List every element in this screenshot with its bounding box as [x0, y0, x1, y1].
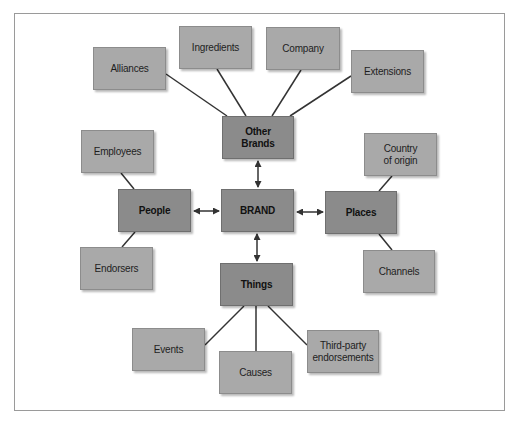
node-country-of-origin: Country of origin	[364, 133, 437, 176]
node-things: Things	[220, 263, 293, 306]
node-other-brands: Other Brands	[222, 116, 294, 159]
node-events: Events	[132, 328, 205, 371]
node-employees: Employees	[81, 130, 154, 173]
node-alliances: Alliances	[93, 47, 166, 90]
node-people: People	[118, 189, 191, 232]
node-causes: Causes	[219, 351, 292, 394]
node-channels: Channels	[363, 250, 435, 293]
node-third-party-endorsements: Third-party endorsements	[307, 330, 379, 373]
node-extensions: Extensions	[351, 50, 424, 93]
node-endorsers: Endorsers	[80, 247, 153, 290]
node-ingredients: Ingredients	[179, 26, 252, 69]
node-places: Places	[325, 191, 397, 234]
node-brand: BRAND	[221, 189, 294, 232]
node-company: Company	[266, 27, 340, 70]
